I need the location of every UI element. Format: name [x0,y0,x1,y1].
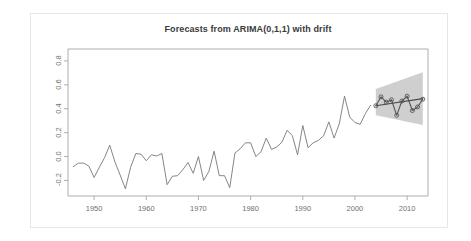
y-tick-label: 0.4 [54,96,63,120]
x-tick-label: 1990 [288,204,318,213]
plot-frame [68,49,428,196]
x-tick-label: 2010 [392,204,422,213]
x-tick-label: 1970 [183,204,213,213]
x-tick-label: 2000 [340,204,370,213]
series-line-historical [73,96,370,189]
y-tick-label: 0.8 [54,48,63,72]
x-axis-ticks [94,196,407,200]
y-tick-label: 0.6 [54,72,63,96]
plot-axes [64,49,428,200]
y-tick-label: -0.2 [54,168,63,192]
data-series [73,96,423,189]
x-tick-label: 1960 [131,204,161,213]
y-tick-label: 0.0 [54,144,63,168]
y-tick-label: 0.2 [54,120,63,144]
y-axis-ticks [64,61,68,181]
x-tick-label: 1950 [79,204,109,213]
x-tick-label: 1980 [236,204,266,213]
chart-figure: Forecasts from ARIMA(0,1,1) with drift -… [0,0,471,241]
